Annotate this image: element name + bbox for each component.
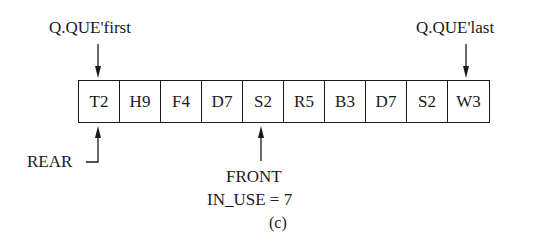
- label-front: FRONT: [226, 167, 282, 187]
- queue-diagram: Q.QUE'first Q.QUE'last T2 H9 F4 D7 S2 R5…: [0, 0, 540, 241]
- arrow-last-icon: [463, 44, 469, 78]
- label-in-use: IN_USE = 7: [207, 190, 292, 210]
- arrow-front-icon: [258, 126, 264, 161]
- figure-caption: (c): [269, 214, 287, 232]
- arrow-rear-icon: [86, 126, 101, 162]
- label-rear: REAR: [27, 152, 72, 172]
- arrow-first-icon: [95, 44, 101, 78]
